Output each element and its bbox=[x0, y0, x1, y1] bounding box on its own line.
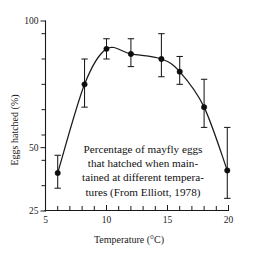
data-point bbox=[128, 51, 133, 56]
data-point bbox=[201, 104, 206, 109]
data-point bbox=[104, 46, 109, 51]
caption-line: Percentage of mayfly eggs bbox=[84, 143, 203, 155]
x-axis-title: Temperature (°C) bbox=[94, 234, 164, 246]
y-tick-label: 100 bbox=[24, 16, 39, 26]
x-tick-label: 10 bbox=[102, 215, 112, 225]
data-point bbox=[159, 56, 164, 61]
caption-line: tained at different tempera- bbox=[82, 171, 204, 183]
chart-plot: 2550100 Eggs hatched (%) 5101520 Tempera… bbox=[0, 0, 259, 257]
data-point bbox=[55, 170, 60, 175]
y-tick-label: 25 bbox=[29, 206, 39, 216]
x-tick-label: 15 bbox=[163, 215, 173, 225]
chart-caption: Percentage of mayfly eggsthat hatched wh… bbox=[82, 143, 204, 199]
y-tick-label: 50 bbox=[29, 143, 39, 153]
data-point bbox=[225, 168, 230, 173]
data-point bbox=[177, 69, 182, 74]
figure-container: 2550100 Eggs hatched (%) 5101520 Tempera… bbox=[0, 0, 259, 257]
x-tick-label: 20 bbox=[224, 215, 234, 225]
caption-line: tures (From Elliott, 1978) bbox=[86, 186, 201, 199]
caption-line: that hatched when main- bbox=[88, 157, 199, 169]
x-tick-label: 5 bbox=[43, 215, 48, 225]
y-axis-title: Eggs hatched (%) bbox=[9, 94, 21, 165]
data-point bbox=[82, 82, 87, 87]
